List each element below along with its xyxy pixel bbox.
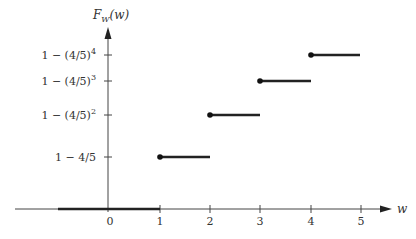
x-tick-label-1: 1 [157, 215, 164, 228]
x-tick-label-2: 2 [207, 215, 214, 228]
dot-icon [257, 78, 263, 84]
x-tick-label-3: 3 [257, 215, 264, 228]
y-tick-label-1: 1 − 4/5 [55, 151, 96, 164]
x-axis-label: w [397, 202, 408, 216]
y-axis-arrow-icon [105, 27, 112, 39]
y-tick-label-2: 1 − (4/5)2 [41, 107, 96, 122]
dot-icon [308, 52, 314, 58]
x-tick-label-4: 4 [308, 215, 315, 228]
y-axis-label: FW(w) [92, 8, 130, 24]
closed-endpoints [157, 52, 314, 160]
x-tick-label-5: 5 [358, 215, 365, 228]
x-axis-arrow-icon [380, 206, 392, 213]
y-tick-label-4: 1 − (4/5)4 [41, 47, 96, 62]
cdf-step-chart: 0 1 2 3 4 5 w FW(w) 1 − 4/5 1 − (4/5)2 1… [0, 0, 416, 239]
y-tick-label-3: 1 − (4/5)3 [41, 73, 96, 88]
dot-icon [157, 154, 163, 160]
x-tick-label-0: 0 [107, 215, 114, 228]
cdf-steps [58, 55, 360, 209]
dot-icon [207, 112, 213, 118]
